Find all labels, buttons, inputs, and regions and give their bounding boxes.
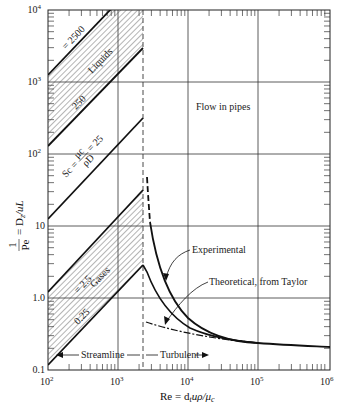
turbulent-arrowhead xyxy=(202,352,209,358)
svg-text:102: 102 xyxy=(40,375,54,387)
label-theoretical: Theoretical, from Taylor xyxy=(209,276,308,287)
chart: Streamline Turbulent = 2500 Liquids 250 … xyxy=(0,0,340,404)
label-experimental: Experimental xyxy=(192,244,246,255)
svg-text:103: 103 xyxy=(28,75,42,87)
label-streamline: Streamline xyxy=(81,349,125,360)
y-axis-title: 1 Pe = Dz/uL xyxy=(6,200,31,251)
svg-text:106: 106 xyxy=(320,375,334,387)
label-flow-in-pipes: Flow in pipes xyxy=(196,101,251,112)
experimental-leader xyxy=(166,250,190,278)
svg-text:105: 105 xyxy=(250,375,264,387)
x-tick-labels: 102 103 104 105 106 xyxy=(40,375,334,387)
svg-text:0.1: 0.1 xyxy=(33,364,46,375)
svg-text:104: 104 xyxy=(180,375,194,387)
svg-text:1: 1 xyxy=(6,242,18,248)
svg-text:Sc =: Sc = xyxy=(60,158,81,179)
label-sc-25: Sc = μc ρD = 25 xyxy=(56,129,110,184)
label-turbulent: Turbulent xyxy=(160,349,199,360)
svg-text:103: 103 xyxy=(110,375,124,387)
svg-text:= 25: = 25 xyxy=(85,133,106,154)
svg-text:102: 102 xyxy=(28,147,42,159)
svg-text:= Dz/uL: = Dz/uL xyxy=(13,200,27,235)
svg-text:104: 104 xyxy=(28,3,42,15)
experimental-curve-dashed xyxy=(147,177,150,222)
x-axis-title: Re = dtuρ/μc xyxy=(160,390,215,404)
svg-text:1.0: 1.0 xyxy=(33,292,46,303)
y-tick-labels: 0.1 1.0 10 102 103 104 xyxy=(28,3,46,375)
svg-text:10: 10 xyxy=(35,220,45,231)
liquids-region xyxy=(48,10,143,146)
svg-text:Pe: Pe xyxy=(19,239,31,250)
